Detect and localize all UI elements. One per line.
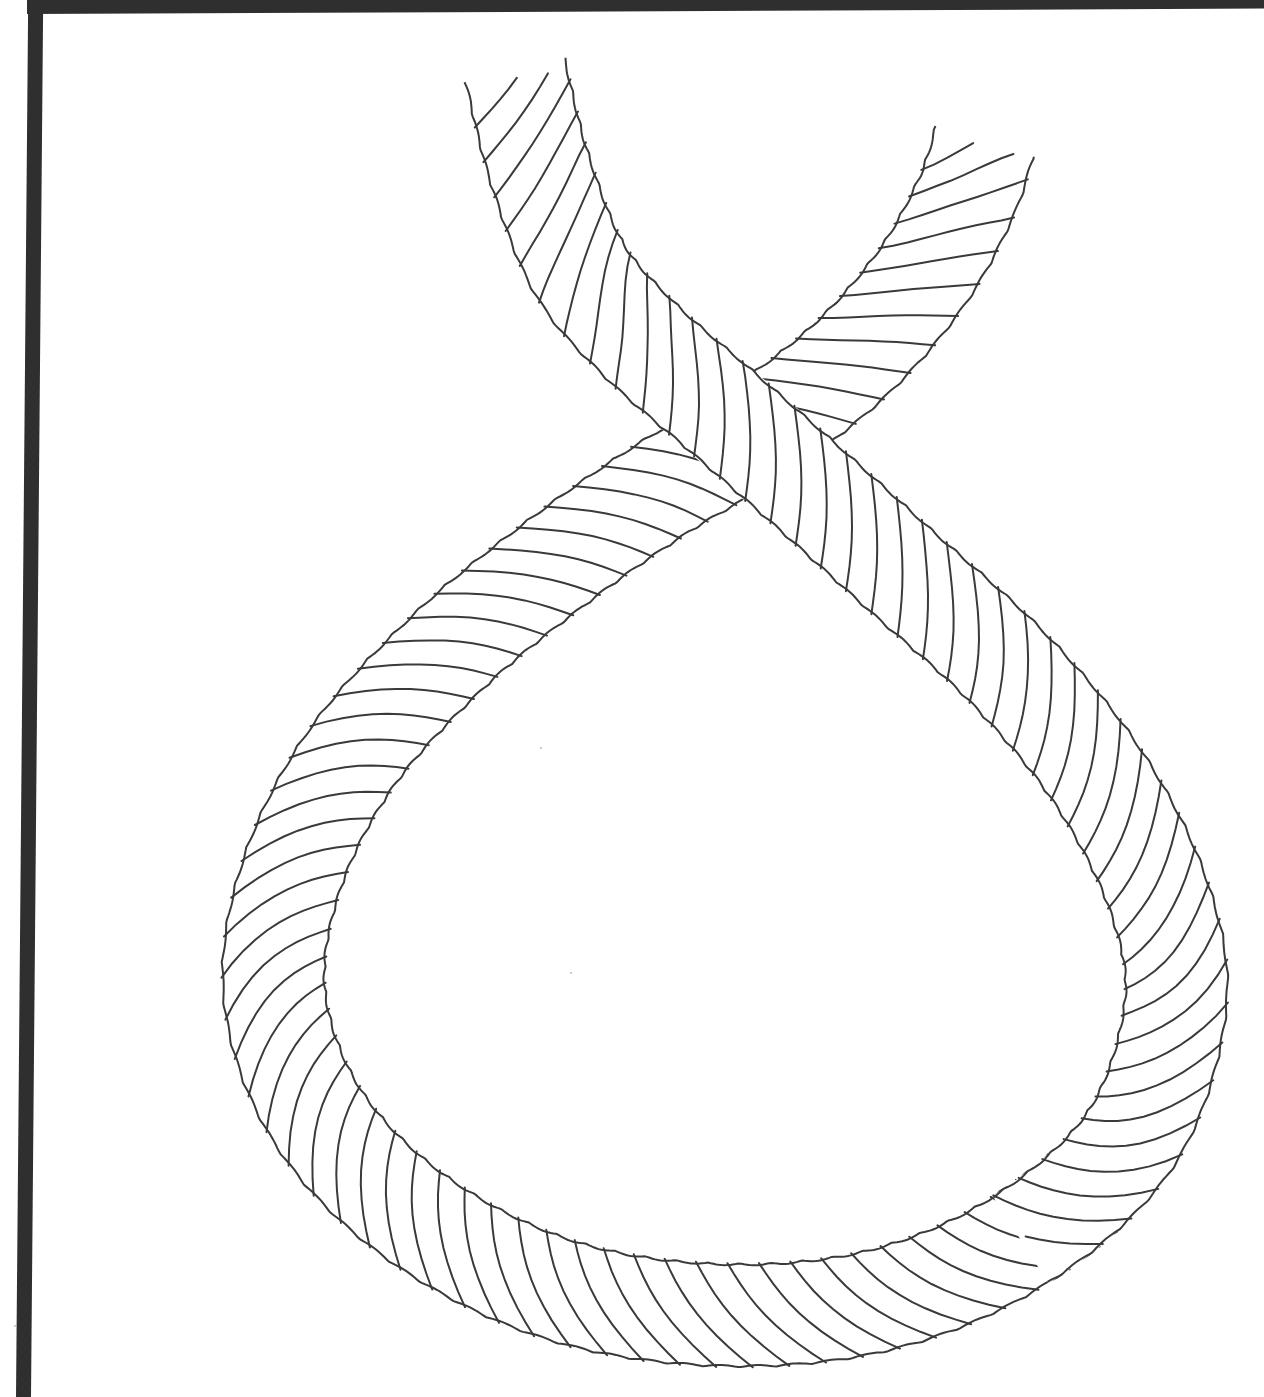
rope-illustration <box>0 0 1264 1397</box>
rope-over-segment <box>465 58 1229 1284</box>
speck <box>540 747 542 749</box>
speck <box>14 1325 16 1327</box>
speck <box>570 972 572 974</box>
